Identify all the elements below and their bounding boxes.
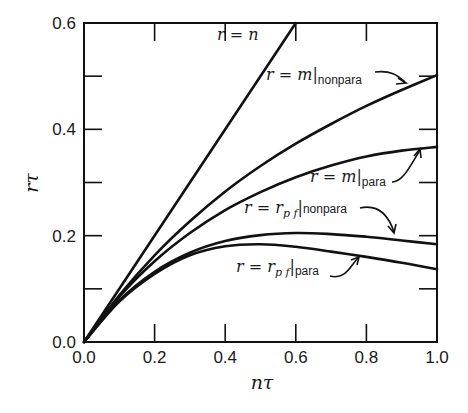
curve-r-n bbox=[84, 23, 296, 342]
chart: 0.0 0.2 0.4 0.6 0.8 1.0 0.0 0.2 0.4 0.6 … bbox=[0, 0, 468, 413]
x-tick-label: 0.2 bbox=[143, 348, 167, 367]
annotation-rpf-nonpara: r = rp f|nonpara bbox=[244, 198, 396, 233]
annotation-m-nonpara: r = m|nonpara bbox=[266, 65, 406, 87]
x-axis-label: nτ bbox=[251, 371, 274, 393]
annotation-r-equals-n: r = n bbox=[217, 25, 259, 44]
x-tick-label: 0.8 bbox=[355, 348, 379, 367]
y-tick-label: 0.4 bbox=[52, 120, 76, 139]
y-tick-label: 0.0 bbox=[52, 333, 76, 352]
annotation-label: r = m|nonpara bbox=[266, 65, 362, 87]
annotation-label: r = n bbox=[217, 25, 259, 44]
y-tick-label: 0.6 bbox=[52, 14, 76, 33]
y-tick-label: 0.2 bbox=[52, 227, 76, 246]
x-tick-labels: 0.0 0.2 0.4 0.6 0.8 1.0 bbox=[72, 348, 449, 367]
annotation-m-para: r = m|para bbox=[310, 149, 421, 189]
annotation-label: r = rp f|nonpara bbox=[244, 198, 347, 220]
y-tick-labels: 0.0 0.2 0.4 0.6 bbox=[52, 14, 76, 352]
x-tick-label: 0.4 bbox=[213, 348, 237, 367]
y-axis-label: rτ bbox=[20, 173, 42, 193]
annotation-rpf-para: r = rp f|para bbox=[236, 257, 359, 279]
annotation-label: r = rp f|para bbox=[236, 257, 319, 279]
x-tick-label: 0.6 bbox=[284, 348, 308, 367]
annotation-label: r = m|para bbox=[310, 167, 386, 189]
arrow-icon bbox=[330, 258, 358, 277]
x-tick-label: 1.0 bbox=[425, 348, 449, 367]
